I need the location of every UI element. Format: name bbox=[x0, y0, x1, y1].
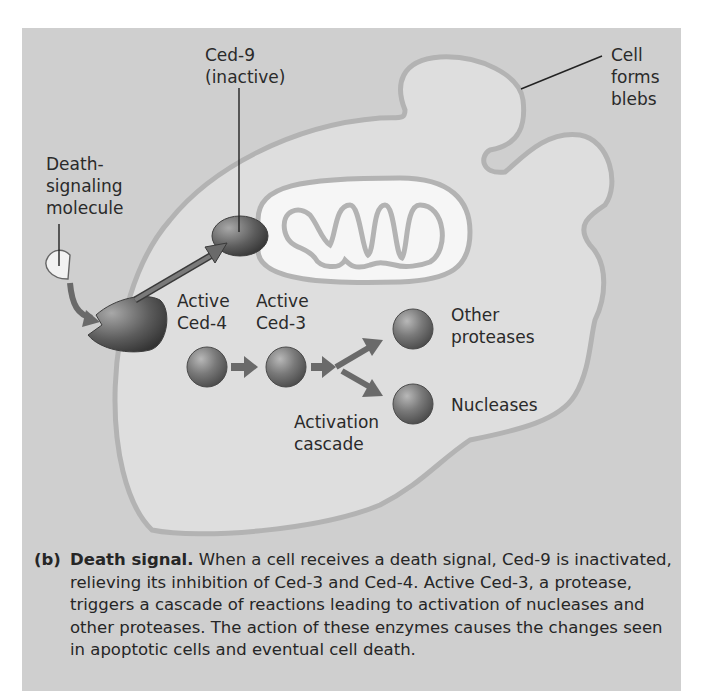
receptor-protein bbox=[88, 296, 167, 351]
activation-cascade-label: Activation cascade bbox=[294, 411, 379, 455]
ced9-label: Ced-9 (inactive) bbox=[205, 44, 285, 88]
cell-blebs-label: Cell forms blebs bbox=[611, 44, 660, 110]
other-proteases-label: Other proteases bbox=[451, 304, 535, 348]
caption-tag: (b) bbox=[34, 549, 61, 572]
nucleases-protein bbox=[393, 384, 433, 424]
caption-title: Death signal. bbox=[70, 550, 194, 569]
death-molecule-label: Death- signaling molecule bbox=[46, 153, 123, 219]
active-ced3-label: Active Ced-3 bbox=[256, 290, 309, 334]
mitochondrion bbox=[258, 178, 470, 283]
blebs-leader-line bbox=[521, 56, 602, 89]
death-signal-molecule bbox=[46, 250, 70, 279]
other-proteases-protein bbox=[393, 309, 433, 349]
nucleases-label: Nucleases bbox=[451, 394, 538, 416]
figure-caption: (b) Death signal. When a cell receives a… bbox=[34, 549, 674, 662]
ced3-protein bbox=[266, 347, 306, 387]
ced4-protein bbox=[187, 347, 227, 387]
active-ced4-label: Active Ced-4 bbox=[177, 290, 230, 334]
